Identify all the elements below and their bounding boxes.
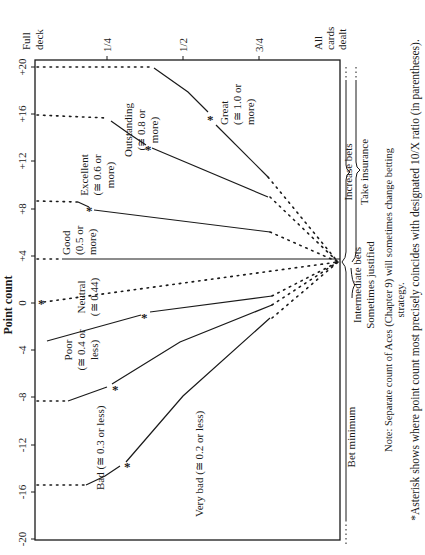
label-outstanding: more) bbox=[148, 117, 161, 144]
label-great: more) bbox=[244, 98, 257, 125]
label-outstanding: (≅ 0.8 or bbox=[135, 109, 148, 150]
label-very-bad: Very bad (≅ 0.2 or less) bbox=[193, 411, 206, 517]
y-tick-label: -16 bbox=[16, 484, 28, 499]
y-tick-label: -4 bbox=[16, 345, 28, 355]
y-axis-title: Point count bbox=[1, 275, 15, 334]
label-neutral: Neutral bbox=[75, 281, 87, 314]
asterisk-markers: * * * * * * * bbox=[38, 112, 214, 474]
label-great: (≅ 1.0 or bbox=[231, 84, 244, 125]
label-bad: Bad (≅ 0.3 or less) bbox=[94, 405, 107, 490]
label-sometimes-justified: Sometimes justified bbox=[364, 241, 376, 329]
y-tick-label: -12 bbox=[16, 438, 28, 453]
label-good: (0.5 or bbox=[73, 225, 86, 255]
label-excellent: more) bbox=[104, 162, 117, 189]
deck-tick-label: 1/4 bbox=[101, 37, 113, 52]
label-excellent: Excellent bbox=[78, 154, 90, 196]
label-increase-bets: Increase bets bbox=[342, 143, 354, 200]
y-tick-label: +16 bbox=[16, 105, 28, 123]
y-tick-label: +8 bbox=[16, 203, 28, 215]
asterisk-great: * bbox=[207, 112, 214, 127]
label-neutral: (≅ 0.44) bbox=[88, 278, 101, 317]
full-deck-label: Full bbox=[20, 32, 32, 50]
deck-tick-label: 3/4 bbox=[253, 37, 265, 52]
y-tick-label: +20 bbox=[16, 58, 28, 76]
label-outstanding: Outstanding bbox=[122, 103, 134, 157]
y-tick-label: +12 bbox=[16, 152, 28, 169]
label-poor: Poor bbox=[62, 339, 74, 360]
label-poor: (≅ 0.4 or bbox=[75, 329, 88, 370]
full-deck-label: deck bbox=[33, 29, 45, 50]
label-excellent: (≅ 0.6 or bbox=[91, 154, 104, 195]
label-intermediate-bets: Intermediate bets bbox=[351, 247, 363, 323]
label-poor: less) bbox=[88, 340, 101, 361]
y-tick-label: 0 bbox=[16, 300, 28, 306]
note-aces: Note: Separate count of Aces (Chapter 9)… bbox=[383, 147, 395, 452]
y-tick-label: +4 bbox=[16, 250, 28, 262]
asterisk-excellent: * bbox=[86, 203, 93, 218]
note-aces-cont: strategy. bbox=[395, 282, 406, 317]
label-good: Good bbox=[60, 230, 72, 255]
asterisk-bad: * bbox=[112, 382, 119, 397]
label-great: Great bbox=[218, 101, 230, 125]
note-asterisk: *Asterisk shows where point count most p… bbox=[409, 39, 422, 521]
label-take-insurance: Take insurance bbox=[358, 139, 370, 205]
chart-canvas: +20 +16 +12 +8 +4 0 -4 -8 -12 -16 -20 Po… bbox=[0, 0, 425, 555]
deck-tick-label: 1/2 bbox=[177, 38, 189, 52]
asterisk-very-bad: * bbox=[124, 459, 131, 474]
label-good: more) bbox=[86, 228, 99, 255]
asterisk-poor: * bbox=[141, 310, 148, 325]
label-bet-minimum: Bet minimum bbox=[345, 406, 357, 467]
dotted-segments bbox=[37, 67, 338, 485]
y-tick-label: -20 bbox=[16, 531, 28, 546]
all-cards-label: dealt bbox=[336, 29, 348, 50]
y-tick-label: -8 bbox=[16, 392, 28, 402]
all-cards-label: All bbox=[312, 36, 324, 50]
all-cards-label: cards bbox=[324, 27, 336, 50]
asterisk-neutral: * bbox=[38, 296, 45, 311]
